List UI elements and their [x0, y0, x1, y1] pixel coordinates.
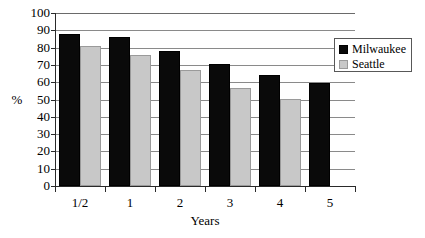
bar-seattle-1 — [130, 55, 151, 186]
y-axis-tick-label: 100 — [24, 6, 50, 19]
x-axis-tick-label: 4 — [255, 196, 305, 210]
bar-group — [155, 13, 205, 186]
y-axis-tick-label: 80 — [24, 41, 50, 54]
bars-layer — [55, 13, 355, 186]
y-axis-tick-label: 60 — [24, 75, 50, 88]
bar-seattle-3 — [230, 88, 251, 186]
legend: MilwaukeeSeattle — [334, 38, 412, 72]
bar-milwaukee-3 — [209, 64, 230, 186]
x-axis-tick-label: 1/2 — [55, 196, 105, 210]
x-axis-tick-label: 2 — [155, 196, 205, 210]
plot-area — [55, 13, 355, 186]
bar-seattle-4 — [280, 99, 301, 186]
y-axis-tick-label: 0 — [24, 179, 50, 192]
y-axis-tick-label: 70 — [24, 58, 50, 71]
y-axis-tick-label: 30 — [24, 127, 50, 140]
bar-seattle-2 — [180, 70, 201, 186]
bar-group — [255, 13, 305, 186]
bar-seattle-1-2 — [80, 46, 101, 186]
bar-milwaukee-1 — [109, 37, 130, 186]
x-axis-tick-mark — [305, 187, 306, 192]
x-axis-tick-label: 3 — [205, 196, 255, 210]
x-axis-tick-mark — [355, 187, 356, 192]
legend-item-milwaukee: Milwaukee — [339, 42, 407, 56]
bar-milwaukee-1-2 — [59, 34, 80, 186]
bar-chart: % 0102030405060708090100 1/212345 Years … — [0, 0, 425, 238]
legend-swatch-icon — [339, 45, 348, 54]
legend-item-seattle: Seattle — [339, 57, 407, 71]
bar-milwaukee-5 — [309, 83, 330, 186]
bar-group — [205, 13, 255, 186]
bar-group — [55, 13, 105, 186]
x-axis-tick-mark — [155, 187, 156, 192]
bar-group — [105, 13, 155, 186]
bar-milwaukee-4 — [259, 75, 280, 186]
y-axis-tick-label: 50 — [24, 93, 50, 106]
y-axis-tick-label: 90 — [24, 23, 50, 36]
legend-swatch-icon — [339, 60, 348, 69]
x-axis-title: Years — [55, 214, 355, 228]
x-axis-tick-mark — [105, 187, 106, 192]
x-axis-tick-mark — [205, 187, 206, 192]
bar-milwaukee-2 — [159, 51, 180, 186]
x-axis-tick-mark — [255, 187, 256, 192]
y-axis-tick-label: 20 — [24, 144, 50, 157]
x-axis-tick-label: 1 — [105, 196, 155, 210]
x-axis-tick-mark — [55, 187, 56, 192]
legend-item-label: Milwaukee — [352, 43, 406, 55]
y-axis-tick-label: 10 — [24, 162, 50, 175]
y-axis-tick-label: 40 — [24, 110, 50, 123]
x-axis-tick-label: 5 — [305, 196, 355, 210]
y-axis-tick-labels: 0102030405060708090100 — [24, 13, 50, 186]
legend-item-label: Seattle — [352, 58, 385, 70]
